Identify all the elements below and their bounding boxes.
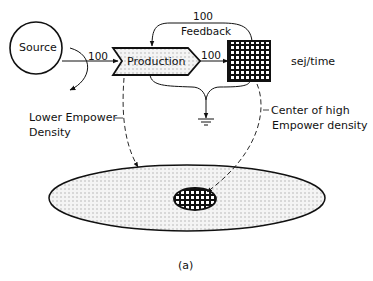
flow-value-source: 100 [88, 50, 108, 63]
source-label: Source [19, 41, 57, 54]
storage-node [228, 41, 270, 81]
feedback-label: Feedback [181, 25, 231, 38]
production-label: Production [127, 55, 186, 68]
units-label: sej/time [291, 55, 335, 68]
ground-icon [198, 119, 214, 125]
center-density-label-1: Center of high [271, 104, 350, 117]
lower-density-leader [123, 78, 138, 167]
flow-value-production: 100 [201, 49, 221, 62]
caption: (a) [178, 259, 193, 272]
center-ellipse [174, 188, 216, 210]
lower-density-label-2: Density [29, 126, 71, 139]
feedback-value: 100 [193, 10, 213, 23]
lower-density-label-1: Lower Empower [29, 111, 117, 124]
center-density-label-2: Empower density [272, 119, 368, 132]
source-loss-arrow [70, 48, 88, 90]
